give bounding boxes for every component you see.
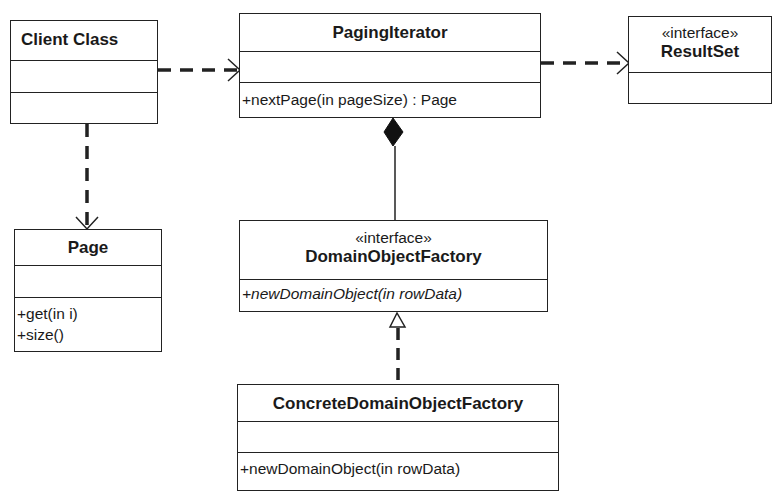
attributes-compartment [11,61,157,93]
dependency-paging-iterator-to-result-set [541,52,629,74]
operations-compartment: +get(in i) +size() [15,298,161,351]
class-domain-object-factory[interactable]: «interface» DomainObjectFactory +newDoma… [239,220,548,312]
hollow-triangle-icon [390,313,405,327]
class-name: Page [68,238,109,257]
class-name: Client Class [21,30,118,49]
class-page[interactable]: Page +get(in i) +size() [14,229,162,352]
class-client[interactable]: Client Class [10,20,158,124]
attributes-compartment [240,52,540,83]
filled-diamond-icon [384,118,403,146]
realization-concrete-to-domain-factory [390,313,405,384]
class-paging-iterator[interactable]: PagingIterator +nextPage(in pageSize) : … [239,13,541,118]
dependency-client-to-page [76,124,98,229]
operations-compartment: +newDomainObject(in rowData) [238,453,558,490]
operations-compartment [11,93,157,123]
operation: +size() [15,324,161,345]
stereotype-label: «interface» [240,229,547,247]
class-name: ResultSet [661,42,739,61]
class-name: PagingIterator [332,23,447,42]
operations-compartment: +nextPage(in pageSize) : Page [240,83,540,117]
abstract-operation: +newDomainObject(in rowData) [240,283,547,304]
class-name: ConcreteDomainObjectFactory [273,394,523,413]
stereotype-label: «interface» [629,24,771,42]
operation: +nextPage(in pageSize) : Page [240,89,540,110]
operations-compartment [629,73,771,103]
class-name-compartment: ConcreteDomainObjectFactory [238,385,558,422]
dependency-client-to-paging-iterator [158,59,240,81]
class-name-compartment: Page [15,230,161,266]
class-result-set[interactable]: «interface» ResultSet [628,16,772,104]
attributes-compartment [238,422,558,453]
operation: +get(in i) [15,303,161,324]
operations-compartment: +newDomainObject(in rowData) [240,280,547,311]
operation: +newDomainObject(in rowData) [238,458,558,479]
class-name-compartment: «interface» DomainObjectFactory [240,221,547,280]
class-name: DomainObjectFactory [305,247,482,266]
attributes-compartment [15,266,161,298]
class-concrete-domain-object-factory[interactable]: ConcreteDomainObjectFactory +newDomainOb… [237,384,559,491]
class-name-compartment: «interface» ResultSet [629,17,771,73]
class-name-compartment: Client Class [11,21,157,61]
class-name-compartment: PagingIterator [240,14,540,52]
composition-paging-iterator-domain-factory [384,118,403,221]
